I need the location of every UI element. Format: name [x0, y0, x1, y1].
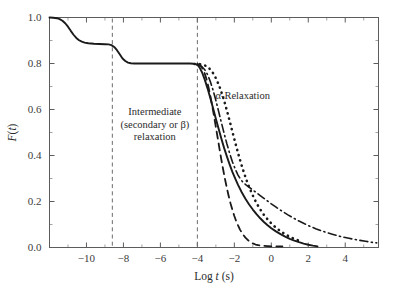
x-tick-label: −10	[78, 252, 96, 264]
y-axis-title: F(t)	[6, 123, 19, 142]
relaxation-chart-figure: −10−8−6−4−2024 0.00.20.40.60.81.0 Interm…	[0, 0, 397, 297]
data-curves	[50, 18, 377, 247]
intermediate-relaxation-label-line: Intermediate	[128, 106, 181, 117]
chart-annotations: Intermediate(secondary or β)relaxationα-…	[120, 90, 270, 142]
x-tick-labels: −10−8−6−4−2024	[78, 252, 349, 264]
curve-full-relaxation-solid	[50, 18, 318, 247]
intermediate-relaxation-label-line: (secondary or β)	[120, 119, 189, 131]
x-tick-label: −6	[155, 252, 167, 264]
y-tick-labels: 0.00.20.40.60.81.0	[28, 11, 42, 253]
x-tick-label: 2	[306, 252, 312, 264]
y-tick-label: 0.2	[28, 195, 42, 207]
y-tick-label: 0.6	[28, 103, 42, 115]
intermediate-relaxation-label-line: relaxation	[134, 131, 177, 142]
axes-frame	[50, 18, 379, 248]
x-tick-label: −8	[118, 252, 130, 264]
x-tick-label: 4	[342, 252, 348, 264]
minor-ticks	[50, 18, 379, 248]
plot-canvas: −10−8−6−4−2024 0.00.20.40.60.81.0 Interm…	[0, 0, 397, 297]
y-tick-label: 0.4	[28, 149, 42, 161]
y-tick-label: 0.8	[28, 57, 42, 69]
x-tick-label: −4	[192, 252, 204, 264]
x-tick-label: −2	[228, 252, 240, 264]
x-axis-title: Log t (s)	[194, 270, 234, 283]
alpha-relaxation-label-line: α-Relaxation	[215, 90, 270, 101]
y-tick-label: 1.0	[28, 11, 42, 23]
major-ticks	[50, 18, 379, 248]
y-tick-label: 0.0	[28, 241, 42, 253]
x-tick-label: 0	[269, 252, 275, 264]
plot-frame	[50, 18, 379, 248]
